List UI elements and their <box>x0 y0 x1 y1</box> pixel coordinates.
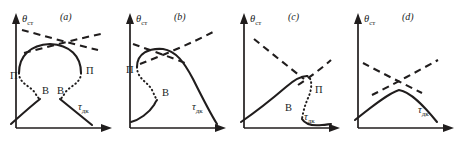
y-axis-label: θст <box>136 13 147 27</box>
panel-d: θст τдк (d) <box>342 0 456 143</box>
panel-d-plot: θст τдк (d) <box>342 0 456 143</box>
panel-c-axes <box>240 13 340 132</box>
panel-b: θст τдк (b) П В <box>114 0 228 143</box>
y-axis-arrowhead <box>354 13 362 24</box>
y-axis-label: θст <box>22 13 33 27</box>
transition-mark-backward: В <box>162 87 169 98</box>
transition-mark-forward: П <box>126 64 134 75</box>
y-axis-arrowhead <box>240 13 248 24</box>
panel-d-axes <box>354 13 454 132</box>
panel-a: θст τдк (a) П В В П <box>0 0 114 143</box>
panel-b-plot: θст τдк (b) П В <box>114 0 228 143</box>
transition-mark-backward-right: В <box>57 85 64 96</box>
dashed-branch-ascending <box>24 34 101 53</box>
panel-c-plot: θст τдк (c) П В <box>228 0 342 143</box>
y-axis-label: θст <box>250 13 261 27</box>
transition-mark-forward-right: П <box>86 65 94 76</box>
x-axis-arrowhead <box>329 124 340 132</box>
panel-c: θст τдк (c) П В <box>228 0 342 143</box>
y-axis-label: θст <box>364 13 375 27</box>
solid-upper-loop <box>19 44 81 73</box>
solid-main <box>241 76 307 122</box>
panel-a-plot: θст τдк (a) П В В П <box>0 0 114 143</box>
figure-container: θст τдк (a) П В В П θст τдк (b) П <box>0 0 456 143</box>
panel-label: (c) <box>288 11 300 23</box>
y-axis-arrowhead <box>12 13 20 24</box>
y-axis-arrowhead <box>126 13 134 24</box>
dashed-branch-descending <box>363 63 422 93</box>
transition-mark-forward: П <box>315 84 323 95</box>
dashed-branch-ascending <box>298 60 331 85</box>
dashed-branch-ascending <box>140 31 215 64</box>
panel-label: (d) <box>402 11 414 23</box>
x-axis-label: τдк <box>192 101 203 115</box>
panel-label: (a) <box>60 11 72 23</box>
transition-mark-backward: В <box>285 102 292 113</box>
dotted-left-transition <box>19 73 40 99</box>
dashed-branch-descending <box>254 39 304 79</box>
transition-mark-forward-left: П <box>10 70 18 81</box>
x-axis-label: τдк <box>78 101 89 115</box>
dashed-branch-descending <box>133 44 185 63</box>
panel-label: (b) <box>174 11 186 23</box>
x-axis-arrowhead <box>101 124 112 132</box>
x-axis-arrowhead <box>215 124 226 132</box>
x-axis-arrowhead <box>443 124 454 132</box>
dotted-transition <box>137 67 157 100</box>
transition-mark-backward-left: В <box>42 85 49 96</box>
dashed-branch-ascending <box>372 60 438 95</box>
solid-lower-hook <box>131 100 157 122</box>
